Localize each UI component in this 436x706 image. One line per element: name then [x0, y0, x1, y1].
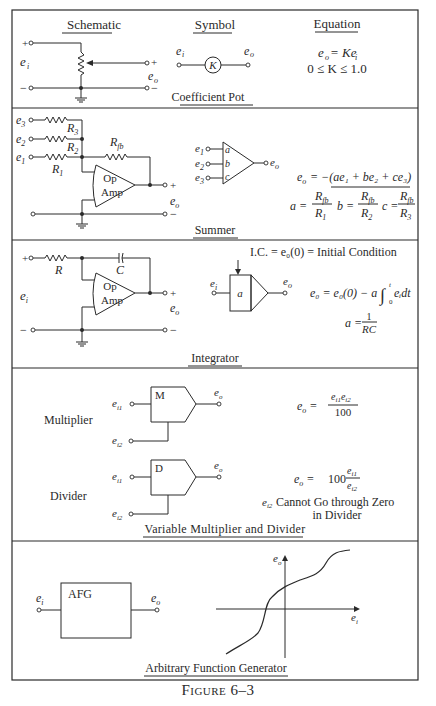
pot-symbol: e i e o K	[176, 44, 254, 73]
svg-text:100: 100	[335, 406, 352, 418]
svg-text:eo: eo	[214, 386, 223, 401]
svg-text:100: 100	[328, 472, 346, 486]
svg-text:+: +	[22, 252, 28, 264]
svg-text:eo: eo	[270, 156, 279, 171]
svg-text:D: D	[155, 462, 163, 474]
svg-text:b =: b =	[337, 199, 354, 213]
svg-text:eo =: eo =	[297, 399, 317, 415]
svg-text:−: −	[170, 323, 177, 337]
svg-text:0: 0	[389, 298, 393, 306]
svg-text:C: C	[116, 263, 125, 277]
svg-text:∫: ∫	[379, 285, 386, 306]
label-divider: Divider	[50, 489, 87, 503]
svg-text:ei2: ei2	[262, 496, 273, 510]
title-integrator: Integrator	[191, 351, 238, 365]
svg-text:K: K	[208, 59, 217, 71]
svg-text:ei1ei2: ei1ei2	[331, 391, 351, 404]
svg-text:ei: ei	[20, 288, 28, 305]
svg-text:eo: eo	[273, 552, 282, 567]
pot-schematic: + + e i e o − −	[20, 37, 158, 102]
svg-text:R1: R1	[314, 206, 326, 222]
section-summer: e3 R3 e2 R2 e1 R1	[16, 113, 415, 238]
summer-schematic: e3 R3 e2 R2 e1 R1	[16, 113, 179, 228]
svg-text:+: +	[170, 179, 176, 191]
svg-text:ei2: ei2	[347, 480, 357, 493]
svg-text:R3: R3	[399, 206, 411, 222]
summer-symbol: e1 e2 e3 a b c eo	[195, 142, 279, 186]
svg-text:o: o	[250, 50, 254, 59]
svg-text:Amp: Amp	[101, 294, 124, 306]
label-multiplier: Multiplier	[44, 413, 93, 427]
svg-text:Op: Op	[103, 280, 117, 292]
title-coefficient-pot: Coefficient Pot	[172, 90, 245, 104]
svg-text:Cannot Go through Zero: Cannot Go through Zero	[276, 495, 394, 509]
svg-text:eo: eo	[297, 170, 306, 186]
svg-text:e2: e2	[16, 132, 25, 148]
section-multiplier-divider: Multiplier ei1 M eo ei2 eo = ei1ei2 100 …	[44, 386, 394, 537]
svg-text:+: +	[22, 37, 28, 49]
svg-text:b: b	[225, 158, 230, 169]
title-summer: Summer	[195, 223, 236, 237]
svg-text:Amp: Amp	[101, 186, 124, 198]
svg-text:R: R	[54, 263, 63, 277]
svg-text:Rfb: Rfb	[399, 189, 414, 205]
svg-text:e3: e3	[195, 171, 204, 186]
svg-text:AFG: AFG	[68, 587, 92, 601]
section-afg: ei AFG eo eo ei Arbitrary Function Gener…	[36, 550, 360, 676]
svg-text:e1: e1	[16, 150, 25, 166]
figure-diagram: Schematic Symbol Equation + + e i e o − …	[0, 0, 436, 706]
multiplier-equation: eo = ei1ei2 100	[297, 391, 358, 418]
integrator-symbol: ei a eo	[210, 260, 292, 311]
svg-text:R2: R2	[66, 140, 78, 156]
divider-symbol: ei1 D eo ei2	[112, 459, 223, 522]
svg-text:+: +	[170, 287, 176, 299]
svg-text:ei: ei	[210, 277, 217, 292]
svg-text:eo: eo	[214, 459, 223, 474]
svg-text:Rfb: Rfb	[314, 189, 329, 205]
svg-text:t: t	[389, 281, 392, 289]
pot-equation: e o = Ke i 0 ≤ K ≤ 1.0	[307, 45, 366, 76]
svg-text:a: a	[237, 287, 243, 299]
svg-text:i: i	[182, 50, 184, 59]
multiplier-symbol: ei1 M eo ei2	[112, 386, 223, 449]
svg-text:Rfb: Rfb	[360, 189, 375, 205]
svg-text:−: −	[151, 81, 158, 95]
svg-text:a =: a =	[290, 199, 307, 213]
integrator-equation: I.C. = e₀(0) = Initial Condition e₀ = e₀…	[250, 245, 411, 335]
svg-text:Op: Op	[103, 172, 117, 184]
afg-symbol: ei AFG eo	[36, 583, 160, 638]
svg-text:Rfb: Rfb	[109, 135, 124, 151]
svg-text:0 ≤ K ≤ 1.0: 0 ≤ K ≤ 1.0	[307, 61, 366, 76]
svg-text:eo: eo	[170, 301, 179, 317]
svg-text:a =: a =	[345, 316, 362, 330]
figure-caption: Figure 6–3	[0, 682, 436, 699]
svg-text:−: −	[20, 323, 27, 337]
svg-text:ei1: ei1	[347, 465, 357, 478]
svg-text:RC: RC	[361, 323, 377, 335]
svg-text:ei1: ei1	[112, 470, 122, 485]
svg-text:−: −	[20, 81, 27, 95]
svg-text:M: M	[155, 389, 165, 401]
summer-equation: eo = −(ae₁ + be₂ + ce₃) a = Rfb R1 b = R…	[290, 170, 415, 222]
title-multiplier-divider: Variable Multiplier and Divider	[145, 522, 306, 536]
svg-text:e1: e1	[195, 142, 204, 157]
svg-text:+: +	[151, 56, 157, 68]
svg-text:a: a	[225, 144, 230, 155]
svg-text:R3: R3	[66, 121, 78, 137]
integrator-schematic: + R C Op Amp + eo ei −	[20, 252, 179, 346]
afg-transfer-plot: eo ei	[216, 550, 360, 658]
svg-text:e2: e2	[195, 157, 204, 172]
header-equation: Equation	[314, 16, 361, 31]
svg-text:R1: R1	[51, 162, 63, 178]
header-symbol: Symbol	[195, 17, 236, 32]
svg-text:c: c	[225, 171, 230, 182]
svg-text:R2: R2	[360, 206, 372, 222]
svg-text:eo =: eo =	[294, 472, 314, 488]
svg-text:e: e	[318, 45, 324, 60]
svg-text:eo: eo	[283, 275, 292, 290]
svg-text:= Ke: = Ke	[330, 45, 357, 60]
frame	[12, 10, 418, 680]
svg-text:c =: c =	[382, 199, 398, 213]
svg-text:−: −	[170, 207, 177, 221]
svg-text:e₀ = e₀(0) − a: e₀ = e₀(0) − a	[310, 286, 377, 300]
